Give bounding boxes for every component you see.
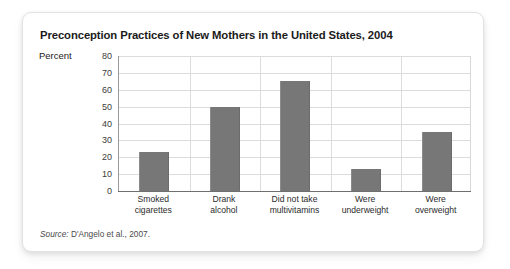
bar[interactable] [280, 81, 310, 191]
x-tick-label-line: Smoked [118, 194, 189, 205]
y-tick-label: 40 [86, 119, 112, 129]
bar[interactable] [139, 152, 169, 191]
x-tick-label-line: multivitamins [259, 205, 330, 216]
figure-card: Preconception Practices of New Mothers i… [22, 12, 484, 252]
x-tick-label-line: cigarettes [118, 205, 189, 216]
y-tick-label: 30 [86, 135, 112, 145]
bar[interactable] [210, 107, 240, 191]
y-axis-tick-labels: 80706050403020100 [86, 56, 112, 191]
x-tick-label: Wereunderweight [330, 194, 401, 216]
y-tick-label: 10 [86, 169, 112, 179]
x-axis-tick-labels: SmokedcigarettesDrankalcoholDid not take… [118, 194, 471, 222]
x-tick-label-line: underweight [330, 205, 401, 216]
plot-area [118, 56, 471, 191]
bar[interactable] [351, 169, 381, 191]
x-tick-label-line: overweight [400, 205, 471, 216]
x-tick-label: Smokedcigarettes [118, 194, 189, 216]
x-tick-label: Drankalcohol [189, 194, 260, 216]
bar-band [331, 56, 402, 191]
x-tick-label: Did not takemultivitamins [259, 194, 330, 216]
y-tick-label: 0 [86, 186, 112, 196]
x-axis-line [118, 191, 471, 192]
source-citation: D'Angelo et al., 2007. [69, 229, 150, 239]
bar[interactable] [422, 132, 452, 191]
x-tick-label-line: Were [330, 194, 401, 205]
x-tick-label: Wereoverweight [400, 194, 471, 216]
y-tick-label: 50 [86, 102, 112, 112]
x-tick-label-line: Did not take [259, 194, 330, 205]
page-title: Preconception Practices of New Mothers i… [40, 29, 393, 41]
bar-band [119, 56, 190, 191]
x-tick-label-line: alcohol [189, 205, 260, 216]
plot-area-wrapper [118, 56, 471, 191]
bar-band [401, 56, 472, 191]
x-tick-label-line: Drank [189, 194, 260, 205]
y-tick-label: 80 [86, 51, 112, 61]
y-axis-title: Percent [39, 50, 72, 61]
x-tick-label-line: Were [400, 194, 471, 205]
bar-band [190, 56, 261, 191]
source-label: Source: [40, 229, 69, 239]
bar-band [260, 56, 331, 191]
y-tick-label: 60 [86, 85, 112, 95]
source-note: Source: D'Angelo et al., 2007. [40, 229, 150, 239]
y-tick-label: 20 [86, 152, 112, 162]
y-tick-label: 70 [86, 68, 112, 78]
